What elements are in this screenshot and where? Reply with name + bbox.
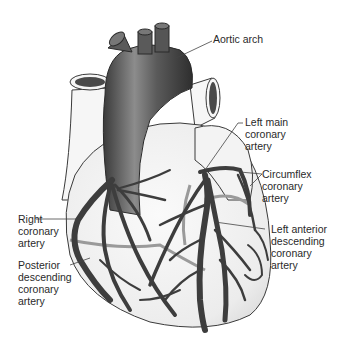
label-text: descending xyxy=(271,235,327,247)
label-text: Posterior xyxy=(18,259,72,271)
label-text: coronary xyxy=(271,247,327,259)
label-text: Circumflex xyxy=(262,168,312,180)
label-text: Left anterior xyxy=(271,223,327,235)
label-text: descending xyxy=(18,271,72,283)
label-text: artery xyxy=(18,295,72,307)
vessel-right xyxy=(190,78,220,128)
label-text: artery xyxy=(245,140,288,152)
label-left-main-coronary-artery: Left main coronary artery xyxy=(245,116,288,152)
label-posterior-descending-coronary-artery: Posterior descending coronary artery xyxy=(18,259,72,307)
label-text: artery xyxy=(262,192,312,204)
label-text: artery xyxy=(18,237,59,249)
label-text: Right xyxy=(18,213,59,225)
label-right-coronary-artery: Right coronary artery xyxy=(18,213,59,249)
label-text: coronary xyxy=(18,225,59,237)
label-text: coronary xyxy=(18,283,72,295)
label-left-anterior-descending-coronary-artery: Left anterior descending coronary artery xyxy=(271,223,327,271)
label-text: coronary xyxy=(262,180,312,192)
label-text: Aortic arch xyxy=(213,33,263,45)
label-text: coronary xyxy=(245,128,288,140)
label-text: Left main xyxy=(245,116,288,128)
label-circumflex-coronary-artery: Circumflex coronary artery xyxy=(262,168,312,204)
label-aortic-arch: Aortic arch xyxy=(213,33,263,45)
label-text: artery xyxy=(271,259,327,271)
